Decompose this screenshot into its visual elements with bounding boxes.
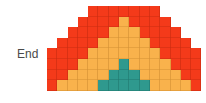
- red-cell: [191, 80, 201, 91]
- orange-cell: [150, 48, 160, 59]
- red-cell: [98, 6, 108, 17]
- empty-cell: [191, 27, 201, 38]
- red-cell: [171, 48, 181, 59]
- orange-cell: [78, 80, 88, 91]
- orange-cell: [119, 48, 129, 59]
- teal-cell: [109, 70, 119, 81]
- red-cell: [88, 6, 98, 17]
- orange-cell: [88, 80, 98, 91]
- empty-cell: [57, 17, 67, 28]
- red-cell: [57, 48, 67, 59]
- teal-cell: [119, 80, 129, 91]
- red-cell: [109, 17, 119, 28]
- red-cell: [98, 17, 108, 28]
- red-cell: [119, 6, 129, 17]
- orange-cell: [88, 70, 98, 81]
- orange-cell: [98, 48, 108, 59]
- red-cell: [140, 17, 150, 28]
- empty-cell: [57, 6, 67, 17]
- red-cell: [88, 38, 98, 49]
- red-cell: [129, 17, 139, 28]
- orange-cell: [109, 48, 119, 59]
- red-cell: [150, 17, 160, 28]
- orange-cell: [181, 80, 191, 91]
- red-cell: [57, 38, 67, 49]
- red-cell: [47, 80, 57, 91]
- empty-cell: [160, 6, 170, 17]
- red-cell: [68, 59, 78, 70]
- empty-cell: [191, 38, 201, 49]
- red-cell: [78, 27, 88, 38]
- orange-cell: [171, 80, 181, 91]
- orange-cell: [150, 80, 160, 91]
- orange-cell: [160, 59, 170, 70]
- red-cell: [78, 38, 88, 49]
- teal-cell: [109, 80, 119, 91]
- red-cell: [88, 27, 98, 38]
- red-cell: [160, 27, 170, 38]
- teal-cell: [140, 80, 150, 91]
- empty-cell: [47, 27, 57, 38]
- orange-cell: [78, 70, 88, 81]
- red-cell: [181, 70, 191, 81]
- orange-cell: [109, 27, 119, 38]
- teal-cell: [98, 80, 108, 91]
- empty-cell: [171, 6, 181, 17]
- red-cell: [140, 27, 150, 38]
- red-cell: [171, 27, 181, 38]
- red-cell: [47, 70, 57, 81]
- empty-cell: [181, 6, 191, 17]
- orange-cell: [68, 70, 78, 81]
- orange-cell: [129, 38, 139, 49]
- red-cell: [68, 38, 78, 49]
- orange-cell: [119, 27, 129, 38]
- empty-cell: [171, 17, 181, 28]
- red-cell: [129, 6, 139, 17]
- empty-cell: [47, 6, 57, 17]
- red-cell: [57, 70, 67, 81]
- orange-cell: [171, 70, 181, 81]
- pixel-grid: [47, 6, 201, 91]
- red-cell: [78, 17, 88, 28]
- empty-cell: [181, 27, 191, 38]
- empty-cell: [47, 38, 57, 49]
- orange-cell: [150, 59, 160, 70]
- red-cell: [109, 6, 119, 17]
- orange-cell: [129, 48, 139, 59]
- red-cell: [191, 59, 201, 70]
- orange-cell: [140, 70, 150, 81]
- orange-cell: [160, 80, 170, 91]
- empty-cell: [57, 27, 67, 38]
- red-cell: [47, 59, 57, 70]
- orange-cell: [98, 38, 108, 49]
- orange-cell: [68, 80, 78, 91]
- red-cell: [88, 17, 98, 28]
- orange-cell: [140, 59, 150, 70]
- red-cell: [140, 6, 150, 17]
- teal-cell: [119, 59, 129, 70]
- orange-cell: [109, 59, 119, 70]
- orange-cell: [88, 48, 98, 59]
- orange-cell: [129, 59, 139, 70]
- orange-cell: [140, 48, 150, 59]
- red-cell: [181, 59, 191, 70]
- red-cell: [171, 38, 181, 49]
- red-cell: [150, 6, 160, 17]
- orange-cell: [129, 27, 139, 38]
- teal-cell: [129, 70, 139, 81]
- red-cell: [181, 48, 191, 59]
- red-cell: [68, 27, 78, 38]
- red-cell: [150, 27, 160, 38]
- orange-cell: [88, 59, 98, 70]
- red-cell: [150, 38, 160, 49]
- orange-cell: [78, 59, 88, 70]
- red-cell: [160, 17, 170, 28]
- orange-cell: [98, 70, 108, 81]
- red-cell: [171, 59, 181, 70]
- orange-cell: [57, 80, 67, 91]
- red-cell: [191, 70, 201, 81]
- teal-cell: [119, 70, 129, 81]
- red-cell: [57, 59, 67, 70]
- empty-cell: [191, 17, 201, 28]
- orange-cell: [150, 70, 160, 81]
